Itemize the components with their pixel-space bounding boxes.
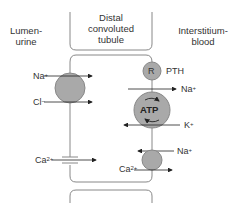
ion-ca-apical: Ca2+ [35,155,53,165]
label-interstitium: Interstitium- blood [170,25,236,47]
receptor-r-label: R [148,66,155,76]
ion-na-apical: Na+ [33,71,48,81]
ion-na-basolateral-out: Na+ [181,84,196,94]
label-lumen: Lumen- urine [4,25,48,47]
atp-label: ATP [140,105,158,115]
na-ca-exchanger [142,150,162,170]
ion-ca-basolateral: Ca2+ [119,164,137,174]
pth-label: PTH [166,66,184,76]
bottom-cell-outline [70,190,152,203]
ion-cl-apical: Cl− [33,97,45,107]
nacl-cotransporter [55,73,85,103]
ion-na-basolateral-in: Na+ [177,146,192,156]
label-tubule: Distal convoluted tubule [76,12,146,45]
ion-k-basolateral: K+ [184,120,194,130]
